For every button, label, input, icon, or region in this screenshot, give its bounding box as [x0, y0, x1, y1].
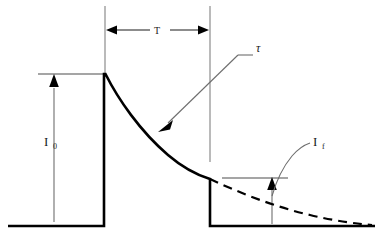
- if-symbol: I: [313, 134, 317, 149]
- if-subscript: f: [322, 142, 325, 151]
- if-arrowhead-icon: [267, 177, 277, 190]
- period-arrowhead-left-icon: [106, 25, 117, 34]
- i0-arrowhead-icon: [49, 74, 59, 87]
- time-constant-label: τ: [256, 41, 261, 55]
- period-label: T: [154, 25, 160, 36]
- pulse-decay-figure: T τ I 0 I f: [0, 0, 383, 237]
- final-intensity-label: I f: [313, 134, 325, 151]
- i0-subscript: 0: [53, 142, 57, 151]
- pulse-decay-curve: [8, 74, 375, 226]
- if-leader-curve: [272, 143, 310, 196]
- tau-leader-diagonal: [168, 55, 238, 123]
- diagram-canvas: T τ I 0 I f: [0, 0, 383, 237]
- period-arrowhead-right-icon: [198, 25, 209, 34]
- initial-intensity-label: I 0: [44, 134, 57, 151]
- final-intensity-arrow: [267, 177, 277, 224]
- tau-arrowhead-icon: [158, 120, 173, 132]
- time-constant-callout-leader: [158, 55, 253, 132]
- extrapolated-decay-curve: [210, 179, 372, 225]
- i0-symbol: I: [44, 134, 48, 149]
